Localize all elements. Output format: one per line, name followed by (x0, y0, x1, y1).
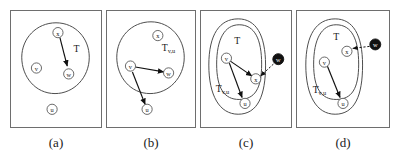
node-u-b: u (142, 104, 152, 114)
node-v-d: v (319, 57, 329, 67)
panel-c: v x u w T Tv,u (200, 10, 292, 128)
node-v-a: v (31, 63, 41, 73)
figure-container: x v w u T (a) (0, 0, 398, 157)
region-Tvu-outline-c (209, 19, 266, 114)
region-label-Tvu-d: Tv,u (313, 84, 327, 96)
panel-b: x v w u Tv,u (106, 10, 196, 128)
node-w-label-a: w (66, 71, 71, 78)
node-w-label-d: w (373, 41, 378, 48)
region-label-Tvu-c: Tv,u (216, 83, 230, 95)
edge-w-to-x-c (261, 64, 274, 76)
region-label-T-c: T (234, 35, 240, 46)
panel-d: x v u w T Tv,u (296, 10, 390, 128)
node-w-c: w (273, 54, 284, 65)
node-v-b: v (125, 61, 135, 71)
edge-x-to-w-a (60, 38, 67, 67)
region-Tvu-outline-b (117, 22, 184, 94)
panel-d-graphic: x v u w T Tv,u (297, 11, 389, 127)
node-u-d: u (338, 98, 348, 108)
panel-c-graphic: v x u w T Tv,u (201, 11, 291, 127)
caption-a: (a) (10, 132, 102, 154)
edge-v-to-w-b (135, 67, 163, 72)
node-u-c: u (240, 98, 250, 108)
region-label-T-a: T (74, 43, 80, 54)
region-label-T-d: T (333, 30, 339, 41)
node-x-d: x (342, 46, 352, 56)
region-label-Tvu-b: Tv,u (162, 42, 176, 54)
node-u-a: u (47, 104, 57, 114)
panel-a: x v w u T (10, 10, 102, 128)
caption-b: (b) (106, 132, 196, 154)
caption-d: (d) (296, 132, 390, 154)
node-w-a: w (64, 69, 74, 79)
node-w-b: w (164, 68, 174, 78)
node-w-label-c: w (276, 56, 281, 63)
node-w-label-b: w (166, 70, 171, 77)
panel-b-graphic: x v w u Tv,u (107, 11, 195, 127)
caption-c: (c) (200, 132, 292, 154)
node-x-c: x (251, 74, 261, 84)
node-x-a: x (53, 28, 63, 38)
node-w-d: w (370, 39, 381, 50)
node-v-c: v (221, 53, 231, 63)
edge-v-to-u-d (327, 66, 340, 97)
node-x-b: x (153, 30, 163, 40)
panel-a-graphic: x v w u T (11, 11, 101, 127)
edge-v-to-u-b (132, 72, 145, 104)
